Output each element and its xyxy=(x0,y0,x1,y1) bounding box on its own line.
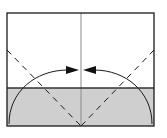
origami-diagram xyxy=(0,0,167,138)
